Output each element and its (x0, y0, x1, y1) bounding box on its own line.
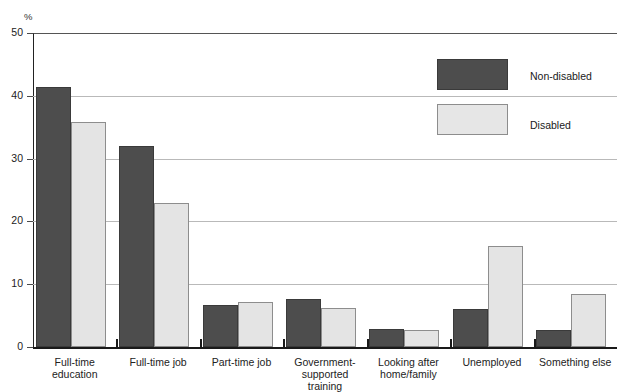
bar-disabled-4 (404, 330, 439, 347)
x-axis-label-3: Government-supported training (283, 356, 366, 392)
y-axis-unit-label: % (24, 12, 32, 22)
bar-disabled-0 (71, 122, 106, 347)
bar-disabled-6 (571, 294, 606, 347)
x-axis-label-0: Full-time education (33, 356, 116, 380)
y-tick-10 (27, 284, 33, 285)
x-axis-label-5: Unemployed (450, 356, 533, 368)
bar-non-disabled-1 (119, 146, 154, 347)
x-axis-label-line: Full-time education (52, 356, 98, 380)
category-separator-1 (116, 339, 118, 348)
y-tick-40 (27, 96, 33, 97)
bar-non-disabled-3 (286, 299, 321, 347)
legend-label-disabled: Disabled (530, 119, 571, 131)
x-axis-label-1: Full-time job (116, 356, 199, 368)
x-axis-label-line: Looking after (378, 356, 439, 368)
bar-non-disabled-6 (536, 330, 571, 347)
category-separator-2 (200, 339, 202, 348)
x-axis-label-line: Unemployed (462, 356, 521, 368)
bar-non-disabled-5 (453, 309, 488, 347)
y-tick-label-30: 30 (0, 153, 23, 164)
bar-disabled-3 (321, 308, 356, 347)
x-axis-label-line: Something else (539, 356, 611, 368)
x-axis-label-4: Looking afterhome/family (367, 356, 450, 380)
y-tick-50 (27, 33, 33, 34)
x-axis-label-line: Full-time job (130, 356, 187, 368)
y-tick-20 (27, 221, 33, 222)
y-tick-label-10: 10 (0, 278, 23, 289)
bar-disabled-2 (238, 302, 273, 347)
y-tick-label-40: 40 (0, 90, 23, 101)
x-axis-label-6: Something else (534, 356, 617, 368)
bar-disabled-5 (488, 246, 523, 347)
y-tick-label-20: 20 (0, 215, 23, 226)
legend-label-non-disabled: Non-disabled (530, 70, 592, 82)
category-separator-5 (450, 339, 452, 348)
y-tick-30 (27, 159, 33, 160)
category-separator-4 (367, 339, 369, 348)
clipped-figure-title (4, 0, 304, 9)
bar-non-disabled-0 (36, 87, 71, 347)
x-axis-label-line: home/family (380, 368, 437, 380)
category-separator-6 (534, 339, 536, 348)
x-axis-label-line: Part-time job (212, 356, 272, 368)
bar-non-disabled-4 (369, 329, 404, 347)
legend-swatch-non-disabled (437, 59, 508, 90)
y-tick-label-50: 50 (0, 27, 23, 38)
x-axis-label-2: Part-time job (200, 356, 283, 368)
bar-disabled-1 (154, 203, 189, 347)
bar-non-disabled-2 (203, 305, 238, 347)
y-tick-label-0: 0 (0, 341, 23, 352)
y-tick-0 (27, 347, 33, 348)
legend-swatch-disabled (437, 104, 508, 135)
category-separator-3 (283, 339, 285, 348)
gridline-40 (33, 96, 617, 97)
x-axis-label-line: Government- (294, 356, 355, 368)
x-axis-label-line: supported training (302, 368, 349, 392)
x-axis-baseline (33, 347, 617, 349)
